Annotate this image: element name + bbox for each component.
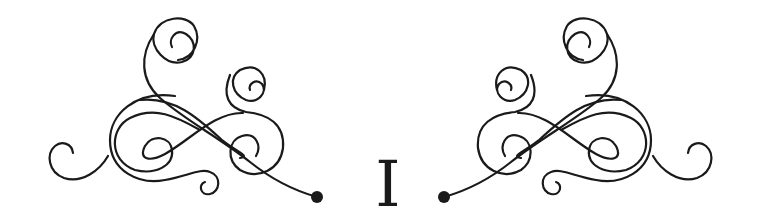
dot-left — [311, 191, 323, 203]
flourish-right — [438, 18, 711, 203]
chapter-numeral: I — [364, 152, 412, 216]
dot-right — [438, 191, 450, 203]
flourish-left — [50, 18, 323, 203]
